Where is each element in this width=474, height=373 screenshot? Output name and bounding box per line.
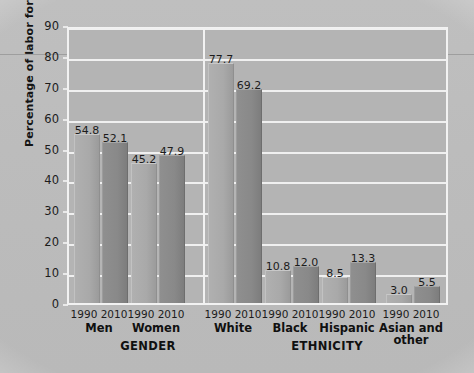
- plot-area: 54.852.145.247.977.769.210.812.08.513.33…: [67, 27, 448, 305]
- bar: [74, 134, 100, 303]
- y-tick-label: 20: [33, 235, 59, 249]
- y-tick-label: 0: [33, 297, 59, 311]
- bar-value-label: 69.2: [231, 79, 267, 92]
- y-tick-label: 90: [33, 19, 59, 33]
- bar-value-label: 52.1: [97, 132, 133, 145]
- x-tick-years: 1990 2010: [376, 308, 446, 320]
- y-tick-label: 70: [33, 81, 59, 95]
- x-category-label: Women: [115, 322, 197, 334]
- bar-value-label: 77.7: [203, 53, 239, 66]
- bar: [265, 270, 291, 303]
- x-tick-years: 1990 2010: [312, 308, 382, 320]
- bar-value-label: 8.5: [317, 267, 353, 280]
- y-tick-label: 50: [33, 143, 59, 157]
- bar: [322, 277, 348, 303]
- y-tick-label: 10: [33, 266, 59, 280]
- bar-value-label: 47.9: [154, 145, 190, 158]
- bar-value-label: 5.5: [409, 276, 445, 289]
- group-axis-title: ETHNICITY: [257, 339, 397, 353]
- y-tick-label: 80: [33, 50, 59, 64]
- y-tick-label: 30: [33, 204, 59, 218]
- bar: [236, 89, 262, 303]
- gridline: [69, 28, 446, 30]
- group-divider: [203, 29, 205, 303]
- bar: [208, 63, 234, 303]
- bar: [293, 266, 319, 303]
- y-axis-title: Percentage of labor force: [23, 0, 36, 152]
- bar: [159, 155, 185, 303]
- y-tick-label: 60: [33, 112, 59, 126]
- y-tick-label: 40: [33, 173, 59, 187]
- bar-value-label: 13.3: [345, 252, 381, 265]
- x-tick-years: 1990 2010: [121, 308, 191, 320]
- bar: [102, 142, 128, 303]
- bar: [131, 163, 157, 303]
- group-axis-title: GENDER: [78, 339, 218, 353]
- chart-page: 9080706050403020100 Percentage of labor …: [0, 0, 474, 373]
- bar: [350, 262, 376, 303]
- gridline: [69, 59, 446, 61]
